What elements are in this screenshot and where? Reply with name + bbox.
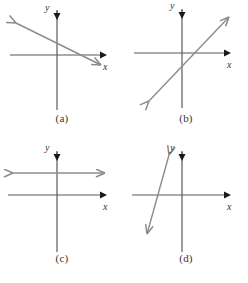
panel-b-y-axis-label: y	[169, 0, 175, 11]
panel-d: x y (d)	[124, 142, 248, 283]
panel-b-plot: x y	[124, 0, 248, 115]
panel-a: x y (a)	[0, 0, 124, 141]
panel-d-plot: x y	[124, 142, 248, 257]
panel-b: x y (b)	[124, 0, 248, 141]
panel-b-graph-line	[149, 17, 229, 101]
panel-a-x-axis-label: x	[102, 61, 108, 72]
panel-c-x-axis-label: x	[102, 201, 108, 212]
panel-a-plot: x y	[0, 0, 124, 115]
panel-c-plot: x y	[0, 142, 124, 257]
panel-c-y-axis-label: y	[44, 142, 50, 153]
panel-d-y-axis-label: y	[169, 142, 175, 153]
panel-a-caption: (a)	[0, 112, 124, 124]
panel-a-y-axis-label: y	[44, 2, 50, 13]
panel-c-caption: (c)	[0, 252, 124, 264]
panel-a-graph-line	[16, 23, 101, 65]
panel-d-caption: (d)	[124, 252, 248, 264]
panel-b-x-axis-label: x	[226, 59, 232, 70]
panel-b-caption: (b)	[124, 112, 248, 124]
figure-root: x y (a) x y (b)	[0, 0, 248, 283]
panel-d-x-axis-label: x	[226, 201, 232, 212]
panel-c: x y (c)	[0, 142, 124, 283]
